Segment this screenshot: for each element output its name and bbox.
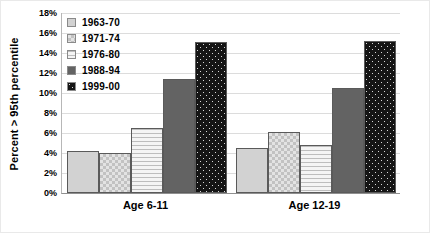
y-axis-tick-label: 16% [25, 28, 57, 38]
legend-swatch-icon [67, 34, 76, 43]
bar[interactable] [99, 153, 131, 193]
bar[interactable] [131, 128, 163, 193]
y-axis-tick-label: 0% [25, 188, 57, 198]
bar[interactable] [268, 132, 300, 193]
legend-item[interactable]: 1999-00 [67, 79, 163, 94]
y-axis-tick-label: 10% [25, 88, 57, 98]
legend-item-label: 1988-94 [82, 65, 120, 76]
bar[interactable] [195, 42, 227, 193]
legend-item[interactable]: 1976-80 [67, 47, 163, 62]
legend-swatch-icon [67, 50, 76, 59]
y-axis-tick-label: 6% [25, 128, 57, 138]
x-axis-tick-label: Age 12-19 [230, 199, 399, 211]
legend-item[interactable]: 1963-70 [67, 15, 163, 30]
legend-swatch-icon [67, 66, 76, 75]
y-axis-tick-label: 2% [25, 168, 57, 178]
legend-item-label: 1999-00 [82, 81, 120, 92]
y-axis-tick-labels: 18%16%14%12%10%8%6%4%2%0% [25, 13, 57, 193]
y-axis-tick-label: 8% [25, 108, 57, 118]
legend-item-label: 1963-70 [82, 17, 120, 28]
chart-legend: 1963-701971-741976-801988-941999-00 [67, 15, 163, 95]
bar[interactable] [364, 41, 396, 193]
bar-group [231, 13, 400, 193]
y-axis-title: Percent > 95th percentile [1, 1, 27, 206]
legend-item[interactable]: 1971-74 [67, 31, 163, 46]
bar[interactable] [236, 148, 268, 193]
y-axis-tick-label: 12% [25, 68, 57, 78]
y-axis-tick-label: 14% [25, 48, 57, 58]
x-axis-tick-label: Age 6-11 [61, 199, 230, 211]
legend-swatch-icon [67, 82, 76, 91]
bar[interactable] [300, 145, 332, 193]
bar[interactable] [332, 88, 364, 193]
bar-chart: Percent > 95th percentile 18%16%14%12%10… [0, 0, 430, 233]
legend-item-label: 1971-74 [82, 33, 120, 44]
y-axis-tick-label: 4% [25, 148, 57, 158]
bar[interactable] [67, 151, 99, 193]
y-axis-title-text: Percent > 95th percentile [8, 37, 20, 170]
legend-item[interactable]: 1988-94 [67, 63, 163, 78]
bar[interactable] [163, 79, 195, 193]
legend-item-label: 1976-80 [82, 49, 120, 60]
legend-swatch-icon [67, 18, 76, 27]
x-axis-tick-labels: Age 6-11Age 12-19 [61, 199, 399, 211]
y-axis-tick-label: 18% [25, 8, 57, 18]
